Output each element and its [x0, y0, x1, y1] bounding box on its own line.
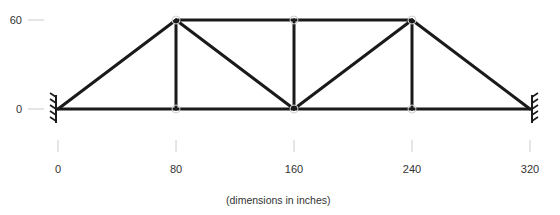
- x-tick-label: 160: [285, 163, 303, 175]
- truss-members: [58, 20, 530, 109]
- fixed-support-icon: [50, 93, 56, 123]
- x-tick-label: 320: [521, 163, 539, 175]
- truss-member-AF: [58, 20, 176, 109]
- dimensions-caption: (dimensions in inches): [226, 194, 330, 206]
- truss-member-CH: [294, 20, 412, 109]
- y-tick-label: 60: [10, 14, 22, 26]
- fixed-support-icon: [532, 93, 538, 123]
- x-tick-label: 80: [170, 163, 182, 175]
- dimension-guides: [28, 20, 530, 152]
- x-tick-label: 0: [55, 163, 61, 175]
- y-tick-label: 0: [16, 103, 22, 115]
- truss-member-FC: [176, 20, 294, 109]
- truss-diagram: 600080160240320 (dimensions in inches): [0, 0, 560, 215]
- truss-member-HE: [412, 20, 530, 109]
- x-tick-label: 240: [403, 163, 421, 175]
